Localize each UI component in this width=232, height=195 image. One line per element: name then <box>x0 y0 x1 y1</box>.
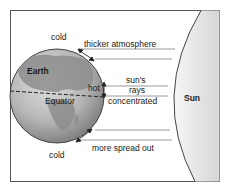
label-earth: Earth <box>27 66 49 76</box>
diagram-canvas: cold thicker atmosphere Earth hot sun's … <box>0 0 232 195</box>
label-more-spread-out: more spread out <box>92 143 155 153</box>
label-thicker-atmosphere: thicker atmosphere <box>84 39 157 49</box>
label-equator: Equator <box>45 96 75 106</box>
label-cold-top: cold <box>51 32 67 42</box>
label-cold-bottom: cold <box>49 150 65 160</box>
label-suns-rays-1: sun's <box>126 75 146 85</box>
label-sun: Sun <box>184 93 200 103</box>
label-suns-rays-3: concentrated <box>108 96 157 106</box>
label-suns-rays-2: rays <box>129 85 145 95</box>
label-hot: hot <box>88 83 100 93</box>
